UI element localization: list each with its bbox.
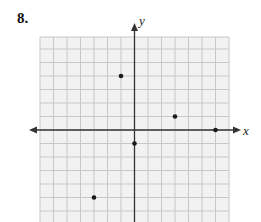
data-point xyxy=(173,114,178,119)
x-axis-left-arrow-icon xyxy=(29,127,37,134)
y-axis-label: y xyxy=(137,13,145,28)
x-axis-right-arrow-icon xyxy=(233,127,241,134)
data-point xyxy=(92,195,97,200)
data-point xyxy=(213,128,218,133)
data-point xyxy=(132,141,137,146)
y-axis-up-arrow-icon xyxy=(131,23,138,31)
coordinate-plane: x y xyxy=(0,0,261,222)
x-axis-label: x xyxy=(242,123,249,138)
data-point xyxy=(119,74,124,79)
